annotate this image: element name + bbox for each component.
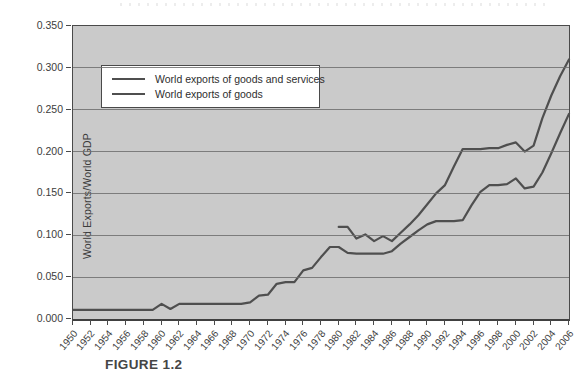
legend: World exports of goods and services Worl… [101,65,320,108]
gridline [73,109,569,110]
x-tick-label: 1966 [198,328,221,352]
legend-label-goods: World exports of goods [155,88,263,100]
x-tick-label: 1960 [145,328,168,352]
x-axis-tick [214,320,215,325]
x-axis-tick [391,320,392,325]
legend-item-goods-and-services: World exports of goods and services [112,71,311,86]
x-tick-label: 1954 [92,328,115,352]
x-axis-tick [320,320,321,325]
legend-label-goods-and-services: World exports of goods and services [155,73,325,85]
y-tick-label: 0.100 [23,228,63,240]
x-tick-label: 2006 [553,328,576,352]
y-tick-label: 0.050 [23,270,63,282]
x-axis-tick [479,320,480,325]
x-axis-tick [161,320,162,325]
x-tick-label: 1992 [429,328,452,352]
x-tick-label: 1984 [358,328,381,352]
x-axis-tick [568,320,569,325]
x-tick-label: 1956 [110,328,133,352]
gridline [73,277,569,278]
y-axis-tick [66,109,71,110]
x-axis-tick [497,320,498,325]
x-axis-tick [444,320,445,325]
x-tick-label: 1998 [482,328,505,352]
x-axis-tick [355,320,356,325]
figure-caption: FIGURE 1.2 [105,357,183,372]
y-tick-label: 0.150 [23,186,63,198]
x-tick-label: 1952 [74,328,97,352]
x-tick-label: 1988 [393,328,416,352]
x-axis-tick [338,320,339,325]
y-tick-label: 0.000 [23,312,63,324]
x-axis-tick [249,320,250,325]
y-tick-label: 0.350 [23,19,63,31]
x-axis-tick [178,320,179,325]
x-tick-label: 1996 [464,328,487,352]
x-axis-tick [267,320,268,325]
y-axis-tick [66,318,71,319]
x-axis-tick [462,320,463,325]
x-axis-tick [302,320,303,325]
y-axis-tick [66,192,71,193]
goods-and-services-line-swatch [112,78,145,80]
y-axis-tick [66,276,71,277]
x-axis-tick [515,320,516,325]
x-axis-tick [107,320,108,325]
x-axis-tick [231,320,232,325]
x-tick-label: 1980 [322,328,345,352]
goods-line-swatch [112,93,145,95]
x-tick-label: 2000 [500,328,523,352]
x-tick-label: 1986 [376,328,399,352]
y-tick-label: 0.300 [23,61,63,73]
y-tick-label: 0.200 [23,145,63,157]
x-axis-tick [426,320,427,325]
x-axis-tick [125,320,126,325]
gridline [73,67,569,68]
x-tick-label: 1958 [128,328,151,352]
y-axis-tick [66,67,71,68]
x-tick-label: 2004 [535,328,558,352]
legend-item-goods: World exports of goods [112,86,311,101]
goods-line [73,114,569,310]
x-tick-label: 1982 [340,328,363,352]
gridline [73,235,569,236]
x-tick-label: 1974 [269,328,292,352]
x-axis-tick [409,320,410,325]
plot-area: World Exports/World GDP World exports of… [72,25,570,321]
x-tick-label: 1968 [216,328,239,352]
scan-artifact [120,3,550,6]
x-axis-tick [285,320,286,325]
x-axis-tick [196,320,197,325]
x-tick-label: 1994 [446,328,469,352]
x-tick-label: 1972 [252,328,275,352]
gridline [73,151,569,152]
x-tick-label: 1978 [305,328,328,352]
x-tick-label: 1950 [57,328,80,352]
gridline [73,193,569,194]
x-tick-label: 1970 [234,328,257,352]
y-axis-tick [66,25,71,26]
x-axis-tick [72,320,73,325]
x-axis-tick [373,320,374,325]
x-axis-tick [550,320,551,325]
x-tick-label: 1976 [287,328,310,352]
y-tick-label: 0.250 [23,103,63,115]
x-tick-label: 2002 [517,328,540,352]
y-axis-tick [66,234,71,235]
x-tick-label: 1962 [163,328,186,352]
x-axis-tick [533,320,534,325]
x-axis-tick [143,320,144,325]
x-tick-label: 1964 [181,328,204,352]
x-tick-label: 1990 [411,328,434,352]
y-axis-tick [66,151,71,152]
x-axis-tick [90,320,91,325]
